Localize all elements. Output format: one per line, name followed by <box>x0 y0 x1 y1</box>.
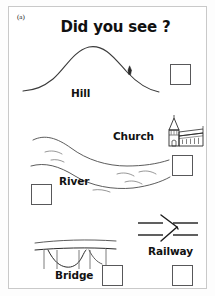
item-label-river: River <box>59 175 89 187</box>
railway-junction-icon <box>137 214 199 244</box>
worksheet-page: (a) Did you see ? Hill <box>0 0 215 296</box>
item-label-hill: Hill <box>71 87 90 99</box>
item-label-bridge: Bridge <box>55 269 93 281</box>
page-title: Did you see ? <box>9 18 207 36</box>
hill-curve-icon <box>21 43 161 95</box>
river-flow-icon <box>31 132 171 202</box>
checkbox-river[interactable] <box>31 184 52 205</box>
checkbox-hill[interactable] <box>170 64 191 85</box>
worksheet-card: (a) Did you see ? Hill <box>8 6 207 289</box>
checkbox-bridge[interactable] <box>102 265 123 286</box>
checkbox-church[interactable] <box>172 155 193 176</box>
checkbox-railway[interactable] <box>172 265 193 286</box>
item-label-railway: Railway <box>148 245 193 257</box>
